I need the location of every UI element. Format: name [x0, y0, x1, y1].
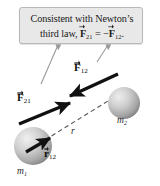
- label-separation-r: r: [71, 127, 75, 137]
- m2-subscript: 2: [124, 120, 127, 126]
- equation-rhs-symbol: F: [109, 28, 115, 39]
- equation-rhs-vector: F: [109, 26, 115, 41]
- f21-symbol: F: [17, 91, 24, 103]
- f12-vector-symbol: F: [74, 62, 81, 73]
- force-f21-arrow: [19, 103, 70, 124]
- callout-text: Consistent with Newton’s third law, F21 …: [20, 11, 144, 42]
- callout-line-2: third law, F21 = −F12.: [20, 26, 144, 42]
- f21-subscript: 21: [24, 97, 31, 105]
- m1-symbol: m: [17, 166, 24, 176]
- label-displacement-r12: r12: [44, 148, 56, 159]
- f21-vector-symbol: F: [17, 92, 24, 103]
- f12-subscript: 12: [81, 67, 88, 75]
- equation-lhs-subscript: 21: [86, 33, 93, 40]
- label-mass-m1: m1: [17, 167, 27, 177]
- label-force-f21: F21: [17, 92, 31, 103]
- callout-line-1: Consistent with Newton’s: [20, 11, 144, 26]
- label-mass-m2: m2: [117, 116, 127, 126]
- leader-to-f12: [97, 45, 111, 62]
- equation-relation: =: [95, 28, 101, 39]
- separation-line: [45, 96, 116, 140]
- callout-line-2-prefix: third law,: [40, 28, 77, 39]
- r12-subscript: 12: [49, 153, 56, 161]
- leader-to-f21: [41, 45, 61, 84]
- equation-terminator: .: [121, 28, 123, 39]
- f12-symbol: F: [74, 61, 81, 73]
- label-force-f12: F12: [74, 62, 88, 73]
- m1-subscript: 1: [24, 171, 27, 177]
- mass-m1-sphere: [14, 127, 52, 165]
- m2-symbol: m: [117, 115, 124, 125]
- equation-rhs-subscript: 12: [115, 33, 122, 40]
- force-f12-arrow: [70, 74, 118, 96]
- callout-box: Consistent with Newton’s third law, F21 …: [19, 7, 143, 44]
- physics-figure: Consistent with Newton’s third law, F21 …: [0, 0, 160, 186]
- mass-m2-sphere: [108, 87, 140, 119]
